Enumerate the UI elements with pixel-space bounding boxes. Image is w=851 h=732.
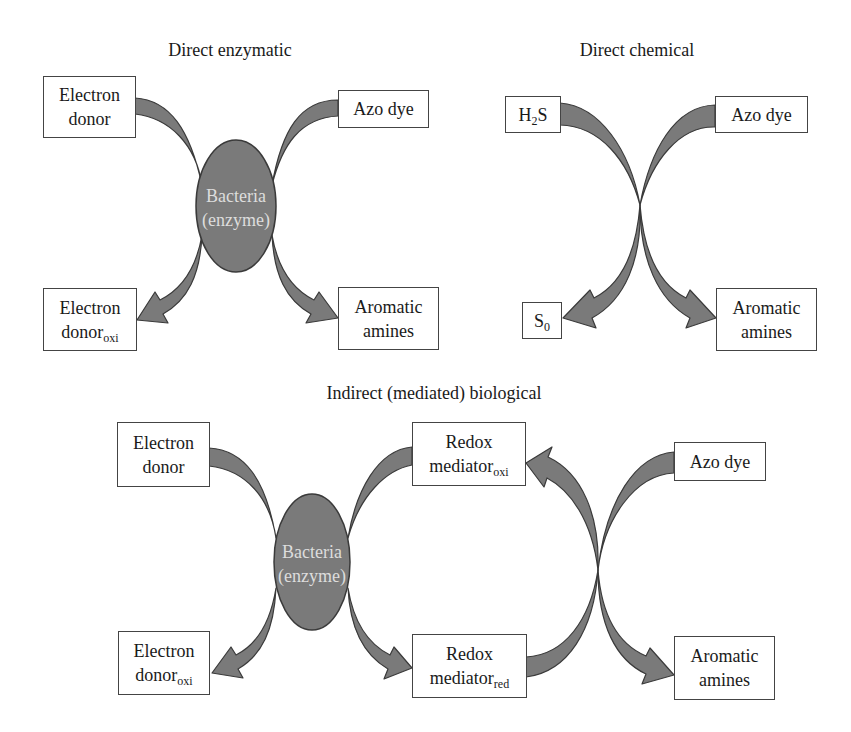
box-azo-dye-3: Azo dye: [674, 442, 766, 481]
arrow-electron-donor-in: [135, 98, 202, 185]
box-redox-mediator-red: Redox mediatorred: [412, 634, 527, 698]
bacteria-label-3: Bacteria (enzyme): [278, 540, 346, 588]
label-line: mediator: [430, 668, 494, 688]
box-aromatic-amines-2: Aromatic amines: [716, 288, 817, 351]
box-aromatic-amines-3: Aromatic amines: [674, 636, 775, 700]
box-electron-donor-3: Electron donor: [117, 422, 210, 487]
label-line: Aromatic: [733, 296, 801, 320]
title-indirect-biological: Indirect (mediated) biological: [327, 383, 542, 404]
label-line: mediator: [429, 456, 493, 476]
label-line: (enzyme): [202, 208, 270, 232]
label: H: [518, 105, 531, 125]
box-azo-dye-2: Azo dye: [715, 96, 808, 133]
bacteria-label-1: Bacteria (enzyme): [202, 184, 270, 232]
label-line: Redox: [446, 430, 493, 454]
arrow-h2s-in: [560, 103, 640, 205]
arrow-redox-red-out: [526, 570, 598, 677]
label-line: Electron: [59, 83, 120, 107]
label: Azo dye: [731, 103, 791, 127]
arrow-to-redox-mediator-oxi: [348, 447, 412, 538]
box-electron-donor-oxi-3: Electron donoroxi: [118, 631, 210, 695]
title-direct-chemical: Direct chemical: [580, 40, 694, 61]
arrow-to-electron-donor-oxi: [137, 235, 202, 323]
label-line: (enzyme): [278, 564, 346, 588]
direct-chemical-arrows: [560, 103, 716, 328]
label-line: donor: [143, 455, 185, 479]
box-s0: S0: [522, 302, 562, 339]
label-line: Aromatic: [355, 295, 423, 319]
arrow-azo-dye-in-3: [598, 452, 674, 570]
label: S: [534, 311, 544, 331]
label-line: amines: [741, 320, 792, 344]
arrow-to-aromatic-amines-2: [640, 205, 716, 328]
label-line: amines: [363, 319, 414, 343]
arrow-to-redox-mediator-red: [348, 588, 412, 679]
box-electron-donor: Electron donor: [43, 76, 136, 138]
label-line: Aromatic: [691, 644, 759, 668]
label-line: amines: [699, 668, 750, 692]
label-line: Electron: [133, 431, 194, 455]
subscript: 0: [544, 320, 550, 334]
subscript: oxi: [103, 331, 118, 345]
label-line: Bacteria: [278, 540, 346, 564]
arrow-azo-dye-in: [272, 100, 338, 185]
arrow-to-aromatic-amines: [272, 235, 338, 323]
label: S: [537, 105, 547, 125]
subscript: oxi: [177, 674, 192, 688]
box-electron-donor-oxi: Electron donoroxi: [43, 288, 137, 351]
label-line: Redox: [446, 642, 493, 666]
label: Azo dye: [690, 450, 750, 474]
arrow-electron-donor-in-3: [209, 448, 276, 538]
label-line: Electron: [134, 639, 195, 663]
label-line: donor: [61, 322, 103, 342]
box-h2s: H2S: [505, 96, 561, 133]
arrow-to-redox-oxi-from-cross: [526, 447, 598, 570]
label: Azo dye: [353, 97, 413, 121]
arrow-to-s0: [563, 205, 640, 328]
arrow-azo-dye-in-2: [640, 105, 715, 205]
box-azo-dye: Azo dye: [338, 90, 429, 128]
subscript: oxi: [493, 465, 508, 479]
box-redox-mediator-oxi: Redox mediatoroxi: [412, 422, 526, 486]
arrow-to-electron-donor-oxi-3: [212, 588, 276, 678]
label-line: donor: [135, 665, 177, 685]
label-line: donor: [69, 107, 111, 131]
subscript: red: [494, 677, 509, 691]
box-aromatic-amines: Aromatic amines: [338, 287, 439, 350]
label-line: Bacteria: [202, 184, 270, 208]
title-direct-enzymatic: Direct enzymatic: [168, 40, 291, 61]
arrow-to-aromatic-amines-3: [598, 570, 674, 684]
label-line: Electron: [60, 296, 121, 320]
